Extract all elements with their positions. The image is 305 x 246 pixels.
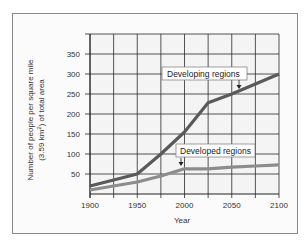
y-axis-title: Number of people per square mile (3.59 k… [26, 59, 46, 181]
line-chart: 5010015020025030035019001950200020502100… [0, 0, 305, 246]
y-tick-label: 250 [67, 90, 81, 99]
y-tick-label: 50 [71, 170, 80, 179]
x-tick-label: 2100 [270, 201, 288, 210]
callout-developed-label: Developed regions [180, 146, 251, 156]
y-tick-label: 200 [67, 110, 81, 119]
x-tick-label: 1900 [81, 201, 99, 210]
y-axis-title-line1: Number of people per square mile [26, 59, 35, 181]
y-tick-label: 300 [67, 70, 81, 79]
grid [85, 34, 279, 198]
x-tick-label: 2050 [223, 201, 241, 210]
x-tick-label: 1950 [128, 201, 146, 210]
y-tick-label: 100 [67, 150, 81, 159]
y-axis-title-line2: (3.59 km2) of total area [36, 79, 46, 161]
y-tick-label: 150 [67, 130, 81, 139]
x-axis-title: Year [174, 216, 191, 225]
x-tick-label: 2000 [176, 201, 194, 210]
callout-developing-label: Developing regions [167, 69, 240, 79]
y-tick-label: 350 [67, 50, 81, 59]
